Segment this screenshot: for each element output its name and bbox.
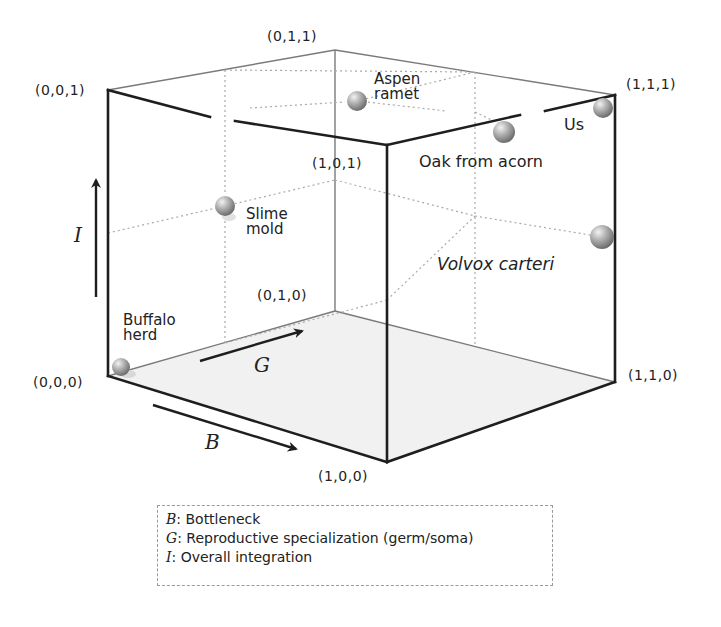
point-slime-mold bbox=[215, 196, 235, 216]
point-volvox-carteri bbox=[590, 225, 614, 249]
axis-label-i: I bbox=[74, 225, 82, 245]
vertex-label-010: (0,1,0) bbox=[257, 288, 307, 302]
axis-label-b: B bbox=[205, 432, 220, 452]
vertex-label-101: (1,0,1) bbox=[312, 156, 362, 170]
legend-key-b: B bbox=[166, 511, 176, 527]
vertex-label-100: (1,0,0) bbox=[318, 469, 368, 483]
label-slime-mold: Slime mold bbox=[246, 207, 288, 237]
vertex-label-011: (0,1,1) bbox=[267, 29, 317, 43]
vertex-label-111: (1,1,1) bbox=[626, 77, 676, 91]
legend-box: B: Bottleneck G: Reproductive specializa… bbox=[157, 505, 553, 586]
point-us bbox=[593, 98, 613, 118]
cube-floor bbox=[108, 311, 615, 462]
label-volvox-carteri: Volvox carteri bbox=[437, 257, 554, 272]
point-aspen-ramet bbox=[347, 91, 367, 111]
label-buffalo-line2: herd bbox=[123, 328, 176, 343]
legend-text-b: : Bottleneck bbox=[176, 511, 260, 527]
legend-row-specialization: G: Reproductive specialization (germ/som… bbox=[166, 529, 552, 548]
label-buffalo-herd: Buffalo herd bbox=[123, 313, 176, 343]
legend-row-integration: I: Overall integration bbox=[166, 548, 552, 567]
label-aspen-line2: ramet bbox=[374, 87, 420, 102]
axis-label-g: G bbox=[254, 355, 270, 375]
vertex-label-000: (0,0,0) bbox=[33, 375, 83, 389]
legend-text-g: : Reproductive specialization (germ/soma… bbox=[177, 530, 473, 546]
vertex-label-110: (1,1,0) bbox=[628, 368, 678, 382]
label-aspen-ramet: Aspen ramet bbox=[374, 72, 420, 102]
label-slime-line2: mold bbox=[246, 222, 288, 237]
legend-key-g: G bbox=[166, 530, 177, 546]
legend-text-i: : Overall integration bbox=[172, 549, 313, 565]
label-oak-from-acorn: Oak from acorn bbox=[419, 154, 543, 169]
guide-lines bbox=[108, 70, 602, 347]
point-oak-from-acorn bbox=[493, 121, 515, 143]
point-buffalo-herd bbox=[112, 358, 130, 376]
legend-row-bottleneck: B: Bottleneck bbox=[166, 510, 552, 529]
vertex-label-001: (0,0,1) bbox=[35, 83, 85, 97]
label-us: Us bbox=[564, 117, 584, 132]
